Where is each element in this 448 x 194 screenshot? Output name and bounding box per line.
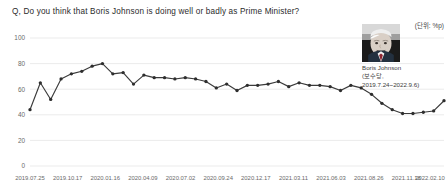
data-point-marker — [287, 85, 290, 88]
y-axis-tick-label: 60 — [18, 86, 26, 93]
data-point-marker — [277, 80, 280, 83]
x-axis-tick-label: 2020.01.16 — [91, 175, 121, 181]
data-point-marker — [297, 81, 300, 84]
x-axis-tick-label: 2020.07.02 — [166, 175, 195, 181]
x-axis-tick-label: 2020.09.24 — [203, 175, 233, 181]
data-point-marker — [308, 84, 311, 87]
y-axis-tick-label: 80 — [18, 60, 26, 67]
x-axis-tick-label: 2021.06.03 — [316, 175, 346, 181]
data-point-marker — [153, 76, 156, 79]
data-point-marker — [101, 62, 104, 65]
data-point-marker — [39, 81, 42, 84]
data-point-marker — [173, 77, 176, 80]
data-point-marker — [391, 108, 394, 111]
data-point-marker — [49, 98, 52, 101]
data-point-marker — [370, 93, 373, 96]
data-point-marker — [411, 112, 414, 115]
data-point-marker — [70, 72, 73, 75]
data-point-marker — [59, 77, 62, 80]
data-point-marker — [442, 99, 445, 102]
data-point-marker — [215, 86, 218, 89]
x-axis-tick-label: 2020.12.17 — [241, 175, 270, 181]
y-axis-tick-label: 40 — [18, 111, 26, 118]
x-axis-tick-label: 2019.07.25 — [15, 175, 45, 181]
portrait-party: (보수당, — [362, 72, 448, 80]
data-point-marker — [90, 65, 93, 68]
data-point-marker — [225, 82, 228, 85]
portrait-block: Boris Johnson (보수당, 2019.7.24~2022.9.6) — [362, 24, 448, 89]
portrait-term: 2019.7.24~2022.9.6) — [362, 81, 448, 89]
data-point-marker — [266, 82, 269, 85]
data-point-marker — [111, 72, 114, 75]
data-point-marker — [246, 84, 249, 87]
x-axis-tick-label: 2021.03.11 — [279, 175, 308, 181]
data-point-marker — [256, 84, 259, 87]
data-point-marker — [142, 73, 145, 76]
x-axis-tick-label: 2022.02.10 — [415, 175, 445, 181]
politician-portrait-photo-icon — [362, 24, 400, 62]
data-point-marker — [132, 82, 135, 85]
data-point-marker — [422, 111, 425, 114]
portrait-name: Boris Johnson — [362, 64, 448, 72]
y-axis-tick-label: 0 — [21, 162, 25, 169]
data-point-marker — [80, 70, 83, 73]
data-point-marker — [339, 89, 342, 92]
data-point-marker — [432, 109, 435, 112]
data-point-marker — [122, 71, 125, 74]
data-point-marker — [28, 108, 31, 111]
x-axis-tick-label: 2020.04.09 — [128, 175, 157, 181]
x-axis-tick-label: 2021.08.26 — [354, 175, 384, 181]
data-point-marker — [380, 102, 383, 105]
y-axis-tick-label: 100 — [14, 34, 25, 41]
data-point-marker — [349, 84, 352, 87]
data-point-marker — [194, 77, 197, 80]
data-point-marker — [204, 80, 207, 83]
data-point-marker — [163, 76, 166, 79]
portrait-caption: Boris Johnson (보수당, 2019.7.24~2022.9.6) — [362, 64, 448, 89]
data-point-marker — [329, 85, 332, 88]
data-point-marker — [401, 112, 404, 115]
data-point-marker — [318, 84, 321, 87]
data-point-marker — [184, 76, 187, 79]
data-point-marker — [235, 89, 238, 92]
y-axis-tick-label: 20 — [18, 137, 26, 144]
x-axis-tick-label: 2019.10.17 — [53, 175, 82, 181]
